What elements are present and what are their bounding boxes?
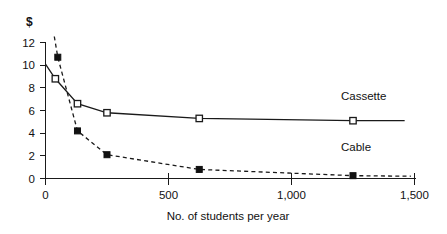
chart-container: $ 0 2 4 6 8 10 12 (0, 0, 447, 234)
x-tick-label-1000: 1,000 (277, 189, 306, 201)
data-point-cassette-40 (52, 76, 58, 82)
y-axis-unit-label: $ (26, 15, 33, 29)
x-tick-label-0: 0 (42, 189, 48, 201)
y-tick-label-2: 2 (29, 150, 35, 162)
x-tick-label-1500: 1,500 (400, 189, 429, 201)
x-axis-title: No. of students per year (167, 210, 290, 222)
data-point-cable-250 (104, 152, 110, 158)
series-label-cassette: Cassette (341, 90, 386, 102)
data-point-cassette-130 (74, 101, 80, 107)
y-axis-ticks (40, 43, 46, 179)
y-tick-label-6: 6 (29, 105, 35, 117)
data-point-cassette-1250 (350, 118, 356, 124)
series-label-cable: Cable (341, 141, 371, 153)
x-tick-label-500: 500 (159, 189, 178, 201)
y-tick-label-12: 12 (22, 37, 35, 49)
data-point-cable-50 (55, 54, 61, 60)
data-point-cable-1250 (350, 173, 356, 179)
x-axis-tick-labels: 0 500 1,000 1,500 (42, 189, 429, 201)
series-layer (46, 37, 411, 179)
y-tick-label-10: 10 (22, 59, 35, 71)
y-axis-tick-labels: 0 2 4 6 8 10 12 (22, 37, 35, 185)
y-tick-label-0: 0 (29, 173, 35, 185)
data-point-cassette-625 (196, 115, 202, 121)
data-point-cassette-250 (104, 110, 110, 116)
y-tick-label-8: 8 (29, 82, 35, 94)
data-point-cable-130 (74, 128, 80, 134)
y-tick-label-4: 4 (29, 127, 36, 139)
data-point-cable-625 (196, 166, 202, 172)
line-chart: $ 0 2 4 6 8 10 12 (0, 0, 447, 234)
